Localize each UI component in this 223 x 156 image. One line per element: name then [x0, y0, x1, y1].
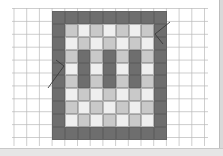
board-cell [103, 127, 116, 140]
board-cell [154, 24, 167, 37]
board-cell [129, 11, 142, 24]
board-cell [90, 101, 103, 114]
board-cell [103, 101, 116, 114]
board-cell [65, 63, 78, 76]
board-cell [65, 114, 78, 127]
board-cell [103, 88, 116, 101]
board-cell [116, 101, 129, 114]
board-cell [78, 50, 91, 63]
board-cell [78, 114, 91, 127]
board-cell [90, 63, 103, 76]
board-cell [116, 50, 129, 63]
board-cell [65, 101, 78, 114]
board-cell [154, 50, 167, 63]
board-cell [154, 63, 167, 76]
board-cell [141, 114, 154, 127]
board-cell [116, 114, 129, 127]
board-cell [154, 75, 167, 88]
board-cell [116, 88, 129, 101]
page-edge [219, 0, 223, 148]
board-cell [103, 50, 116, 63]
board-cell [141, 63, 154, 76]
board-cell [65, 75, 78, 88]
board-cell [141, 127, 154, 140]
board-cell [52, 11, 65, 24]
board-cell [129, 37, 142, 50]
board-cell [141, 24, 154, 37]
board-cell [78, 11, 91, 24]
board-cell [154, 101, 167, 114]
tiled-board [52, 11, 167, 140]
board-cell [52, 127, 65, 140]
board-cell [116, 37, 129, 50]
board-cell [90, 24, 103, 37]
board-cell [78, 75, 91, 88]
board-cell [52, 101, 65, 114]
board-cell [52, 88, 65, 101]
board-cell [65, 50, 78, 63]
board-cell [141, 37, 154, 50]
board-cell [90, 88, 103, 101]
board-cell [78, 24, 91, 37]
board-cell [154, 11, 167, 24]
board-cell [90, 11, 103, 24]
board-cell [141, 75, 154, 88]
board-cell [129, 127, 142, 140]
board-cell [52, 50, 65, 63]
board-cell [103, 75, 116, 88]
board-cell [90, 114, 103, 127]
board-cell [90, 75, 103, 88]
board-cell [116, 75, 129, 88]
board-cell [52, 63, 65, 76]
board-cell [141, 50, 154, 63]
board-cell [103, 24, 116, 37]
board-cell [154, 37, 167, 50]
board-cell [90, 127, 103, 140]
board-cell [65, 37, 78, 50]
board-cell [90, 37, 103, 50]
board-cell [141, 88, 154, 101]
board-cell [52, 37, 65, 50]
board-cell [78, 127, 91, 140]
board-cell [103, 11, 116, 24]
board-cell [65, 88, 78, 101]
board-cell [116, 127, 129, 140]
board-cell [116, 24, 129, 37]
board-cell [129, 24, 142, 37]
board-cell [116, 11, 129, 24]
board-cell [129, 88, 142, 101]
board-cell [129, 114, 142, 127]
board-cell [65, 127, 78, 140]
board-cell [103, 63, 116, 76]
board-cell [154, 88, 167, 101]
figure-canvas [0, 0, 223, 156]
board-cell [65, 11, 78, 24]
board-cell [52, 24, 65, 37]
board-cell [103, 37, 116, 50]
board-cell [65, 24, 78, 37]
board-cell [129, 50, 142, 63]
board-cell [154, 114, 167, 127]
board-cell [78, 63, 91, 76]
board-cell [116, 63, 129, 76]
board-cell [78, 101, 91, 114]
page-bottom-edge [0, 148, 223, 156]
board-cell [129, 75, 142, 88]
board-cell [141, 101, 154, 114]
board-cell [90, 50, 103, 63]
board-cell [154, 127, 167, 140]
board-cell [129, 63, 142, 76]
board-cell [78, 37, 91, 50]
board-cell [129, 101, 142, 114]
board-cell [141, 11, 154, 24]
board-cell [103, 114, 116, 127]
board-cell [52, 75, 65, 88]
board-cell [52, 114, 65, 127]
board-cell [78, 88, 91, 101]
